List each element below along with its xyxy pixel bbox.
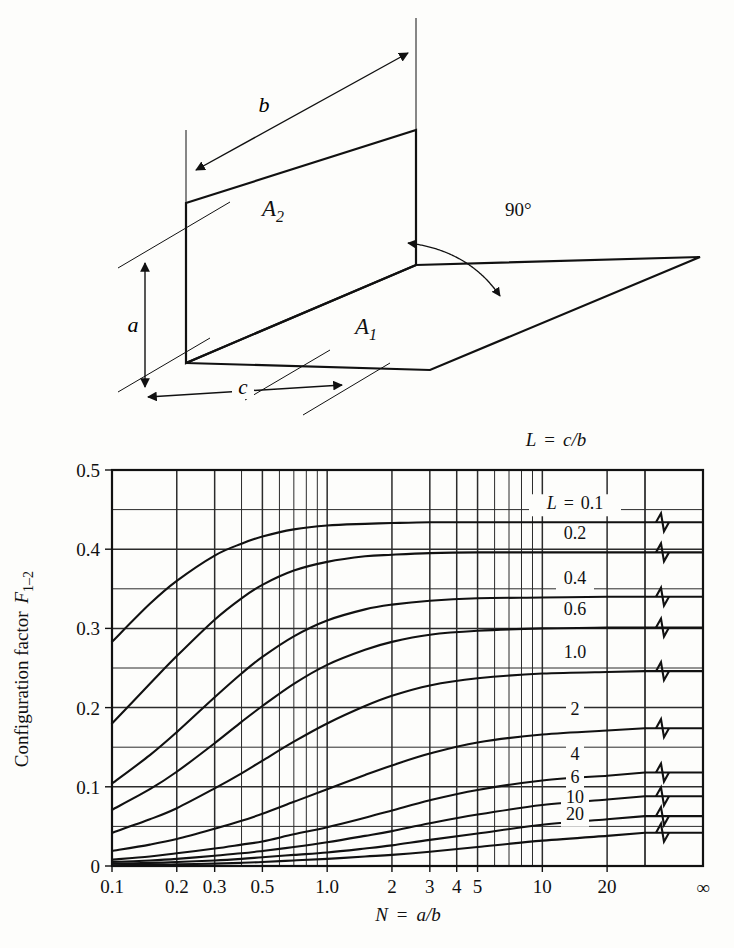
y-tick-label: 0.4: [76, 539, 100, 560]
y-tick-label: 0: [91, 856, 101, 877]
curve-label-20: 20: [566, 804, 584, 824]
curve-label-bg: [529, 494, 621, 516]
dimension-b-line: [196, 53, 408, 170]
ext-line-c-far: [303, 363, 390, 415]
angle-label: 90°: [505, 199, 532, 220]
dimension-a-label: a: [128, 312, 139, 337]
x-tick-label: 0.5: [251, 876, 275, 897]
x-tick-label: 20: [598, 876, 617, 897]
dimension-c: c: [148, 375, 342, 399]
axis-break-marks: [656, 513, 669, 841]
x-tick-label: 0.3: [203, 876, 227, 897]
x-tick-label: 5: [473, 876, 483, 897]
curve-label-2: 2: [571, 699, 580, 719]
x-tick-label: 4: [452, 876, 462, 897]
curve-label-0-4: 0.4: [564, 568, 587, 588]
plate-outlines: [186, 130, 700, 370]
x-axis-title-text: N=a/b: [374, 904, 441, 925]
y-tick-label: 0.3: [76, 618, 100, 639]
geometry-diagram-panel: b a c 9: [0, 0, 734, 424]
curve-20: [112, 833, 645, 865]
x-tick-label: 2: [387, 876, 397, 897]
x-tick-label: 0.1: [100, 876, 124, 897]
ext-line-b-lower: [118, 202, 230, 268]
legend-title: L=c/b: [525, 429, 587, 450]
y-axis-ticks: 00.10.20.30.40.5: [76, 460, 112, 877]
y-tick-label: 0.5: [76, 460, 100, 481]
configuration-factor-chart-panel: L=c/b L=0.10.20.40.61.02461020 0.10.20.3…: [0, 424, 734, 948]
ext-line-c-right: [245, 350, 330, 400]
x-tick-label: 3: [425, 876, 435, 897]
curve-label-6: 6: [571, 767, 580, 787]
dimension-a: a: [122, 263, 145, 387]
x-tick-label: 0.2: [165, 876, 189, 897]
curve-label-4: 4: [571, 744, 580, 764]
plate-a1-outline: [186, 257, 700, 370]
x-tick-label: 10: [533, 876, 552, 897]
geometry-diagram-svg: b a c 9: [0, 0, 734, 424]
dimension-c-label: c: [238, 375, 248, 399]
curve-label-0-2: 0.2: [564, 523, 587, 543]
y-tick-label: 0.1: [76, 777, 100, 798]
configuration-factor-chart-svg: L=c/b L=0.10.20.40.61.02461020 0.10.20.3…: [0, 424, 734, 948]
area-a2-label: A2: [260, 196, 284, 225]
y-tick-label: 0.2: [76, 698, 100, 719]
x-tick-label-infinity: ∞: [696, 877, 710, 898]
figure-root: b a c 9: [0, 0, 734, 948]
x-axis-title: N=a/b: [374, 904, 441, 925]
area-labels: A2 A1: [260, 196, 377, 343]
area-a1-label: A1: [353, 314, 377, 343]
y-axis-title: Configuration factorF1–2: [11, 571, 36, 767]
curve-label-0-6: 0.6: [564, 599, 587, 619]
y-axis-title-text: Configuration factorF1–2: [11, 571, 36, 767]
data-curves: [112, 522, 703, 865]
curve-0-4: [112, 597, 645, 784]
angle-arc: [408, 243, 500, 296]
plate-a2-outline: [186, 130, 416, 363]
angle-annotation: 90°: [408, 199, 532, 296]
legend-title-text: L=c/b: [525, 429, 587, 450]
curve-label-1-0: 1.0: [564, 642, 587, 662]
dimension-b: b: [196, 53, 408, 170]
x-tick-label: 1.0: [315, 876, 339, 897]
ext-line-a-lower: [118, 338, 210, 392]
x-axis-ticks: 0.10.20.30.51.023451020∞: [100, 866, 710, 898]
dimension-b-label: b: [259, 92, 270, 117]
